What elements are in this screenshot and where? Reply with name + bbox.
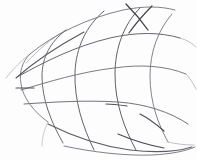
- pencil-sketch-figure: [0, 0, 197, 160]
- sketch-canvas: [0, 0, 197, 160]
- paper-background: [0, 0, 197, 160]
